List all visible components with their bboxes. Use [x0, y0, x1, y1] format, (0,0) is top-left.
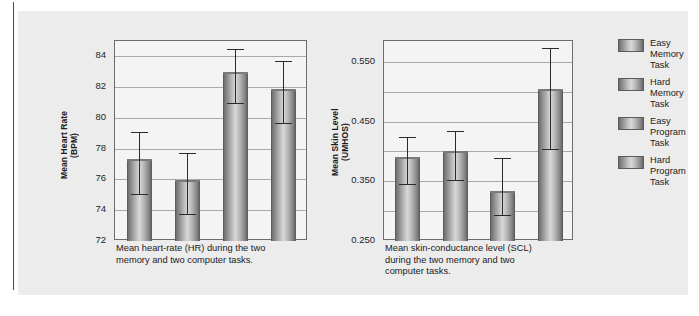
- bars-hr: [115, 41, 306, 239]
- error-bar-stem: [283, 61, 284, 124]
- legend-item[interactable]: Hard Program Task: [618, 155, 699, 188]
- y-axis-tick-labels-hr: 72747678808284: [74, 40, 110, 240]
- legend-item-label: Hard Memory Task: [650, 77, 684, 110]
- error-bar-cap-top: [179, 153, 196, 154]
- y-tick-label: 0.550: [351, 56, 375, 66]
- error-bar-stem: [407, 137, 408, 185]
- error-bar-cap-bottom: [494, 215, 511, 216]
- figure-panel: Mean Heart Rate (BPM) 72747678808284 Mea…: [18, 11, 688, 295]
- error-bar-cap-bottom: [227, 103, 244, 104]
- legend-swatch-easy-program: [618, 117, 644, 130]
- y-tick-label: 76: [95, 173, 106, 183]
- error-bar-stem: [550, 48, 551, 149]
- caption-hr: Mean heart-rate (HR) during the two memo…: [116, 243, 331, 266]
- legend-item-label: Easy Program Task: [650, 116, 686, 149]
- error-bar-stem: [139, 132, 140, 195]
- legend-item[interactable]: Hard Memory Task: [618, 77, 699, 110]
- error-bar: [271, 61, 296, 124]
- error-bar: [538, 48, 563, 149]
- y-tick-label: 0.350: [351, 175, 375, 185]
- plot-area-hr: [114, 40, 307, 240]
- error-bar: [443, 131, 468, 181]
- y-tick-label: 0.250: [351, 235, 375, 245]
- plot-area-scl: [383, 40, 573, 240]
- error-bar-cap-bottom: [447, 180, 464, 181]
- legend-swatch-hard-memory: [618, 78, 644, 91]
- y-tick-label: 78: [95, 143, 106, 153]
- error-bar-cap-bottom: [542, 149, 559, 150]
- y-tick-label: 0.450: [351, 116, 375, 126]
- error-bar: [175, 153, 200, 215]
- error-bar-cap-top: [227, 49, 244, 50]
- error-bar-cap-top: [447, 131, 464, 132]
- error-bar-cap-bottom: [179, 214, 196, 215]
- y-tick-label: 72: [95, 235, 106, 245]
- legend: Easy Memory TaskHard Memory TaskEasy Pro…: [618, 38, 699, 194]
- legend-item-label: Easy Memory Task: [650, 38, 684, 71]
- error-bar: [223, 49, 248, 104]
- error-bar-stem: [187, 153, 188, 215]
- y-axis-tick-labels-scl: 0.2500.3500.4500.550: [343, 40, 379, 240]
- error-bar-cap-top: [131, 132, 148, 133]
- error-bar-stem: [235, 49, 236, 104]
- page-left-rule: [13, 2, 14, 290]
- error-bar-cap-top: [494, 158, 511, 159]
- legend-item-label: Hard Program Task: [650, 155, 686, 188]
- error-bar: [395, 137, 420, 185]
- error-bar-cap-bottom: [131, 194, 148, 195]
- error-bar-cap-top: [275, 61, 292, 62]
- error-bar-stem: [502, 158, 503, 216]
- error-bar-cap-top: [542, 48, 559, 49]
- legend-swatch-easy-memory: [618, 39, 644, 52]
- error-bar-cap-bottom: [275, 123, 292, 124]
- legend-swatch-hard-program: [618, 156, 644, 169]
- y-tick-label: 82: [95, 81, 106, 91]
- bars-scl: [384, 41, 572, 239]
- y-tick-label: 80: [95, 112, 106, 122]
- caption-scl: Mean skin-conductance level (SCL) during…: [385, 243, 585, 278]
- y-tick-label: 84: [95, 50, 106, 60]
- error-bar-cap-top: [399, 137, 416, 138]
- y-tick-label: 74: [95, 204, 106, 214]
- legend-item[interactable]: Easy Program Task: [618, 116, 699, 149]
- error-bar: [490, 158, 515, 216]
- error-bar: [127, 132, 152, 195]
- error-bar-stem: [455, 131, 456, 181]
- legend-item[interactable]: Easy Memory Task: [618, 38, 699, 71]
- error-bar-cap-bottom: [399, 184, 416, 185]
